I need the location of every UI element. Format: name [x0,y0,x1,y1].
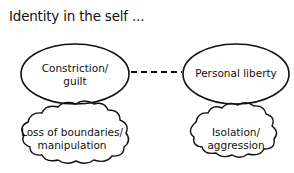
boundaries-label-line2: manipulation [14,139,130,152]
constriction-label-line2: guilt [32,75,118,88]
isolation-label-line1: Isolation/ [196,126,276,139]
constriction-label-line1: Constriction/ [32,62,118,75]
liberty-label: Personal liberty [186,67,286,80]
liberty-node: Personal liberty [186,67,286,80]
boundaries-label-line1: Loss of boundaries/ [14,126,130,139]
boundaries-node: Loss of boundaries/ manipulation [14,126,130,152]
constriction-node: Constriction/ guilt [32,62,118,88]
isolation-label-line2: aggression [196,139,276,152]
isolation-node: Isolation/ aggression [196,126,276,152]
